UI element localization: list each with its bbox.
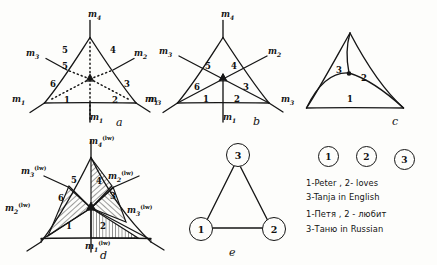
panel-b-mass-label-top: m4 bbox=[221, 10, 234, 21]
figure-canvas: m4 m3 m2 m1 m3 m1 5 4 5 6 3 1 2 a m4 m3 … bbox=[0, 0, 437, 265]
panel-c-region-number-2: 2 bbox=[361, 74, 367, 83]
legend-line-english-2: 3-Tanja in English bbox=[306, 192, 380, 202]
panel-c-region-number-1: 1 bbox=[347, 95, 353, 104]
panel-a-mass-label-upper-left: m3 bbox=[26, 49, 39, 60]
panel-e-node-1[interactable]: 1 bbox=[189, 217, 213, 241]
panel-a-mass-label-bottom: m1 bbox=[90, 113, 103, 124]
panel-b-mass-label-upper-left: m3 bbox=[159, 47, 172, 58]
panel-a-sector-number-2: 2 bbox=[112, 96, 118, 105]
panel-b-mass-label-lower-left: m1 bbox=[145, 95, 158, 106]
panel-e-node-2[interactable]: 2 bbox=[262, 217, 286, 241]
panel-a-sector-number-6: 6 bbox=[50, 80, 56, 89]
panel-a-mass-label-top: m4 bbox=[88, 10, 101, 21]
legend-line-english-1: 1-Peter , 2- loves bbox=[306, 178, 378, 188]
panel-b-mass-label-lower-right: m3 bbox=[281, 95, 294, 106]
legend-line-russian-2: 3-Таню in Russian bbox=[306, 224, 383, 234]
panel-b-sector-number-5: 5 bbox=[205, 62, 211, 71]
panel-a-mass-label-lower-left: m1 bbox=[12, 95, 25, 106]
panel-a-letter: a bbox=[116, 116, 123, 129]
panel-a-edge-number-4: 4 bbox=[110, 46, 116, 55]
panel-b-letter: b bbox=[253, 115, 260, 128]
panel-b-sector-number-4: 4 bbox=[231, 62, 237, 71]
panel-d-mass-label-lower-right: m3(lw) bbox=[127, 205, 152, 217]
panel-b-sector-number-2: 2 bbox=[234, 95, 240, 104]
panel-d-mass-label-upper-left: m3(lw) bbox=[21, 166, 46, 178]
panel-d-sector-number-3: 3 bbox=[110, 192, 116, 201]
legend-circled-number-1[interactable]: 1 bbox=[318, 146, 339, 167]
panel-d-sector-number-2: 2 bbox=[100, 222, 106, 231]
panel-a-sector-number-5: 5 bbox=[62, 62, 68, 71]
legend-circled-number-3[interactable]: 3 bbox=[394, 149, 415, 170]
panel-b-sector-number-3: 3 bbox=[243, 83, 249, 92]
panel-b-sector-number-6: 6 bbox=[194, 83, 200, 92]
panel-d-letter: d bbox=[100, 249, 107, 262]
panel-d-sector-number-5: 5 bbox=[71, 176, 77, 185]
panel-c-letter: c bbox=[392, 115, 398, 128]
panel-a-sector-number-1: 1 bbox=[64, 96, 70, 105]
panel-b-mass-label-bottom: m1 bbox=[223, 113, 236, 124]
panel-d-sector-number-4: 4 bbox=[96, 177, 102, 186]
panel-d-sector-number-1: 1 bbox=[66, 222, 72, 231]
panel-d-mass-label-upper-right: m2(lw) bbox=[108, 171, 133, 183]
panel-d-sector-number-6: 6 bbox=[58, 194, 64, 203]
panel-c-region-number-3: 3 bbox=[336, 66, 342, 75]
panel-d-mass-label-top: m4(lw) bbox=[89, 136, 114, 148]
panel-e-node-3[interactable]: 3 bbox=[226, 143, 250, 167]
legend-line-russian-1: 1-Петя , 2 - любит bbox=[306, 209, 386, 219]
legend-circled-number-2[interactable]: 2 bbox=[356, 146, 377, 167]
panel-e-letter: e bbox=[229, 246, 236, 259]
panel-b-sector-number-1: 1 bbox=[203, 95, 209, 104]
panel-a-mass-label-upper-right: m2 bbox=[134, 49, 147, 60]
panel-a-edge-number-5: 5 bbox=[62, 46, 68, 55]
panel-a-sector-number-3: 3 bbox=[124, 80, 130, 89]
panel-b-mass-label-upper-right: m2 bbox=[268, 47, 281, 58]
panel-d-mass-label-lower-left: m2(lw) bbox=[5, 203, 30, 215]
